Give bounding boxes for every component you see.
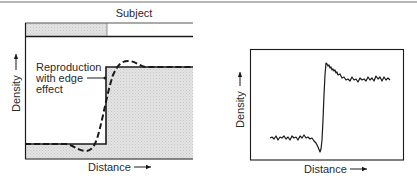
subject-density-region xyxy=(106,67,193,159)
y-axis-label: Density xyxy=(10,54,22,112)
annotation-line-3: effect xyxy=(36,83,63,95)
svg-text:Density: Density xyxy=(10,75,22,112)
svg-text:Density: Density xyxy=(234,91,246,128)
svg-text:Distance: Distance xyxy=(304,163,347,175)
subject-bar xyxy=(25,23,193,37)
y-axis-label-right: Density xyxy=(234,72,246,128)
plot-frame xyxy=(251,50,404,161)
subject-label: Subject xyxy=(116,7,153,19)
left-panel: Subject Reproduction with edge effect De… xyxy=(10,7,193,173)
x-axis-label-right: Distance xyxy=(304,163,367,175)
x-axis-label: Distance xyxy=(88,161,151,173)
svg-text:Distance: Distance xyxy=(88,161,131,173)
edge-effect-diagram: Subject Reproduction with edge effect De… xyxy=(0,0,417,182)
measured-density-trace xyxy=(270,63,390,152)
right-panel: Density Distance xyxy=(234,50,404,176)
